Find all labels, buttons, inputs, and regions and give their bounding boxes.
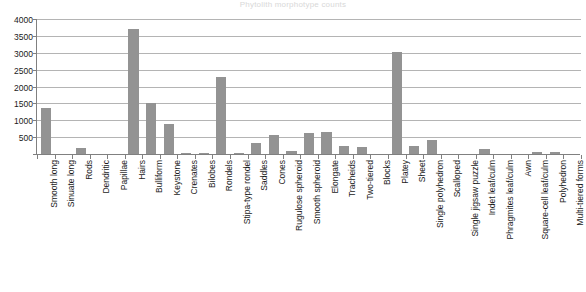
y-axis-tick-label: 1000 xyxy=(3,117,33,126)
x-axis-tick-label: Single polyhedron xyxy=(435,160,445,228)
bar-chart: Phytolith morphotype counts 500100015002… xyxy=(0,0,586,292)
x-axis-tick-label: Tracheids xyxy=(347,160,357,197)
x-axis-tick-label: Keystone xyxy=(172,160,182,195)
chart-title: Phytolith morphotype counts xyxy=(0,0,586,9)
x-axis-tick-label: Indet leaf/culm xyxy=(487,160,497,215)
bar[interactable] xyxy=(146,19,156,154)
bar[interactable] xyxy=(339,19,349,154)
bar[interactable] xyxy=(41,19,51,154)
bar[interactable] xyxy=(304,19,314,154)
x-axis-tick-labels: Smooth longSinuate longRodsDendriticPapi… xyxy=(36,160,580,290)
x-axis-tick-mark xyxy=(511,155,512,159)
y-axis-tick-labels: 5001000150020002500300035004000 xyxy=(0,20,33,155)
x-axis-tick-label: Cones xyxy=(277,160,287,185)
x-axis-tick-mark xyxy=(370,155,371,159)
x-axis-tick-mark xyxy=(37,155,38,159)
x-axis-tick-mark xyxy=(528,155,529,159)
x-axis-tick-label: Hairs xyxy=(137,160,147,180)
x-axis-tick-mark xyxy=(248,155,249,159)
y-axis-tick-label: 3500 xyxy=(3,33,33,42)
x-axis-tick-mark xyxy=(107,155,108,159)
bar-fill xyxy=(550,152,560,154)
bar[interactable] xyxy=(409,19,419,154)
bar[interactable] xyxy=(128,19,138,154)
bar[interactable] xyxy=(357,19,367,154)
bar[interactable] xyxy=(374,19,384,154)
x-axis-tick-label: Smooth long xyxy=(49,160,59,208)
x-axis-tick-label: Dendritic xyxy=(101,160,111,194)
bar-fill xyxy=(392,52,402,154)
x-axis-tick-label: Blocks xyxy=(382,160,392,185)
bar[interactable] xyxy=(269,19,279,154)
y-axis-tick-mark xyxy=(33,53,37,54)
bar[interactable] xyxy=(234,19,244,154)
x-axis-tick-mark xyxy=(581,155,582,159)
bar[interactable] xyxy=(181,19,191,154)
y-axis-tick-mark xyxy=(33,36,37,37)
bar-fill xyxy=(128,29,138,154)
x-axis-tick-mark xyxy=(72,155,73,159)
x-axis-tick-mark xyxy=(55,155,56,159)
bar[interactable] xyxy=(58,19,68,154)
bar[interactable] xyxy=(76,19,86,154)
y-axis-tick-label: 3000 xyxy=(3,50,33,59)
y-axis-tick-label: 2500 xyxy=(3,67,33,76)
x-axis-tick-label: Rugulose spheroid xyxy=(294,160,304,231)
bar[interactable] xyxy=(321,19,331,154)
y-axis-tick-mark xyxy=(33,137,37,138)
bar[interactable] xyxy=(392,19,402,154)
y-axis-tick-label: 1500 xyxy=(3,100,33,109)
bar[interactable] xyxy=(479,19,489,154)
x-axis-tick-label: Sheet xyxy=(417,160,427,182)
x-axis-tick-mark xyxy=(335,155,336,159)
x-axis-tick-label: Multi-tiered forms xyxy=(575,160,585,226)
bar-fill xyxy=(339,146,349,154)
x-axis-tick-mark xyxy=(230,155,231,159)
x-axis-tick-mark xyxy=(493,155,494,159)
x-axis-tick-mark xyxy=(212,155,213,159)
x-axis-tick-label: Bilobes xyxy=(207,160,217,188)
bar[interactable] xyxy=(216,19,226,154)
x-axis-tick-mark xyxy=(177,155,178,159)
bar-fill xyxy=(286,151,296,154)
bar[interactable] xyxy=(93,19,103,154)
bar-fill xyxy=(532,152,542,154)
bar[interactable] xyxy=(550,19,560,154)
x-axis-tick-label: Bulliform xyxy=(154,160,164,193)
bar[interactable] xyxy=(251,19,261,154)
bar[interactable] xyxy=(427,19,437,154)
bar[interactable] xyxy=(497,19,507,154)
x-axis-tick-mark xyxy=(265,155,266,159)
bar-fill xyxy=(216,77,226,154)
x-axis-tick-mark xyxy=(125,155,126,159)
x-axis-tick-label: Rods xyxy=(84,160,94,180)
x-axis-tick-mark xyxy=(318,155,319,159)
y-axis-tick-mark xyxy=(33,70,37,71)
bar-fill xyxy=(199,153,209,154)
bar-fill xyxy=(269,135,279,154)
bar-fill xyxy=(304,133,314,154)
bar[interactable] xyxy=(111,19,121,154)
x-axis-tick-mark xyxy=(458,155,459,159)
bar[interactable] xyxy=(462,19,472,154)
bar[interactable] xyxy=(532,19,542,154)
x-axis-tick-mark xyxy=(195,155,196,159)
bar-fill xyxy=(41,108,51,154)
bar-fill xyxy=(427,140,437,155)
x-axis-tick-label: Smooth spheroid xyxy=(312,160,322,224)
bar[interactable] xyxy=(199,19,209,154)
bar[interactable] xyxy=(567,19,577,154)
bar[interactable] xyxy=(514,19,524,154)
x-axis-tick-mark xyxy=(441,155,442,159)
bar-fill xyxy=(357,147,367,154)
x-axis-tick-label: Papillae xyxy=(119,160,129,190)
bar-fill xyxy=(409,146,419,154)
bar[interactable] xyxy=(164,19,174,154)
bar[interactable] xyxy=(444,19,454,154)
x-axis-tick-label: Awn xyxy=(523,160,533,176)
bar-fill xyxy=(164,124,174,154)
x-axis-tick-mark xyxy=(90,155,91,159)
bar[interactable] xyxy=(286,19,296,154)
y-axis-tick-mark xyxy=(33,19,37,20)
bar-fill xyxy=(251,143,261,154)
